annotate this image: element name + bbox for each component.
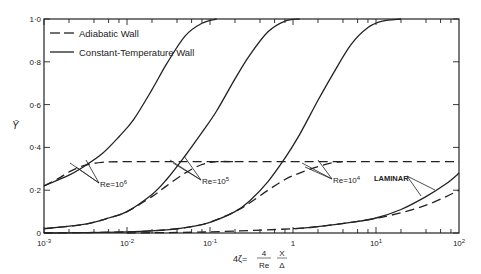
- svg-text:X: X: [279, 249, 285, 258]
- legend-adiabatic-label: Adiabatic Wall: [79, 28, 139, 39]
- y-axis-label: Ȳ: [12, 120, 20, 131]
- curve-annotation: LAMINAR: [374, 174, 409, 183]
- svg-text:Δ: Δ: [279, 261, 285, 270]
- y-tick-label: 0·2: [29, 186, 41, 195]
- curve-annotation: Re=104: [333, 175, 361, 185]
- series-line: [44, 162, 343, 233]
- legend-constant-temp-label: Constant-Temperature Wall: [79, 47, 194, 58]
- x-tick-label: 10-1: [203, 238, 218, 248]
- svg-text:Ȳ: Ȳ: [12, 120, 20, 131]
- svg-text:4: 4: [262, 249, 267, 258]
- y-tick-label: 0·8: [29, 58, 41, 67]
- y-tick-label: 0: [37, 229, 42, 238]
- y-tick-label: 0·4: [29, 143, 41, 152]
- x-axis-label: 4ζ= 4 Re X Δ: [233, 249, 287, 270]
- legend: Adiabatic Wall Constant-Temperature Wall: [50, 28, 194, 58]
- svg-text:4ζ=: 4ζ=: [233, 254, 247, 264]
- svg-text:Re: Re: [259, 261, 270, 270]
- x-tick-label: 101: [370, 238, 383, 248]
- series-line: [44, 162, 235, 229]
- x-tick-label: 102: [453, 238, 466, 248]
- series-line: [44, 19, 217, 186]
- series-line: [127, 190, 459, 233]
- x-tick-label: 10-2: [120, 238, 135, 248]
- chart: 10-310-210-11101102 00·20·40·60·81·0 Re=…: [0, 0, 481, 274]
- curve-annotation: Re=106: [100, 179, 128, 189]
- x-tick-label: 10-3: [37, 238, 52, 248]
- y-tick-label: 1·0: [29, 15, 41, 24]
- curve-annotation: Re=105: [202, 176, 230, 186]
- x-tick-label: 1: [291, 239, 296, 248]
- y-tick-label: 0·6: [29, 101, 41, 110]
- annotations: Re=106Re=105Re=104LAMINAR: [100, 174, 409, 189]
